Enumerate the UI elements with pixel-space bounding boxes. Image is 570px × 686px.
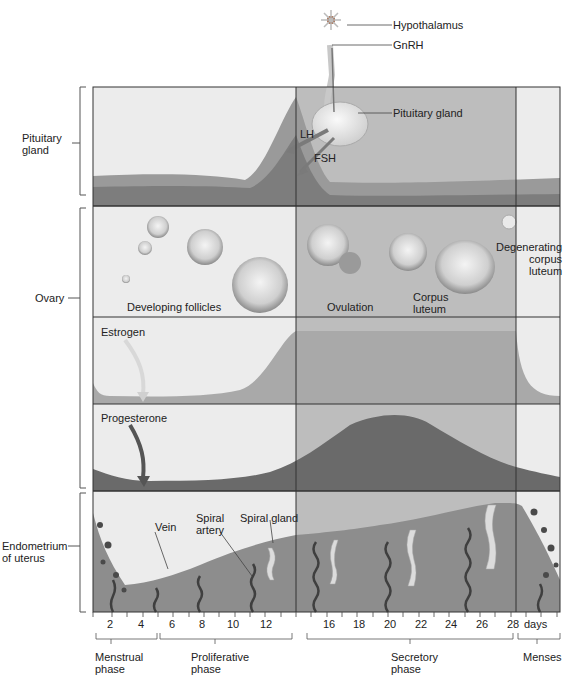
label-endometrium-line1: Endometrium bbox=[2, 540, 67, 552]
label-ovary: Ovary bbox=[35, 292, 64, 304]
label-hypothalamus: Hypothalamus bbox=[393, 19, 463, 31]
label-pituitary-line2: gland bbox=[22, 144, 62, 156]
label-spiral-gland: Spiral gland bbox=[240, 512, 298, 524]
label-spiral-artery-line2: artery bbox=[196, 524, 224, 536]
label-menstrual-line1: Menstrual bbox=[95, 651, 143, 663]
axis-unit: days bbox=[524, 618, 547, 630]
tick-18: 18 bbox=[353, 618, 365, 630]
label-proliferative-line1: Proliferative bbox=[191, 651, 249, 663]
label-pituitary-gland: Pituitary gland bbox=[393, 107, 463, 119]
tick-6: 6 bbox=[169, 618, 175, 630]
label-spiral-artery-line1: Spiral bbox=[196, 512, 224, 524]
label-corpus-luteum: Corpus luteum bbox=[413, 291, 448, 315]
label-estrogen: Estrogen bbox=[101, 326, 145, 338]
label-pituitary-line1: Pituitary bbox=[22, 132, 62, 144]
label-secretory-line2: phase bbox=[391, 663, 438, 675]
label-lh: LH bbox=[300, 128, 314, 140]
tick-26: 26 bbox=[476, 618, 488, 630]
tick-8: 8 bbox=[199, 618, 205, 630]
tick-10: 10 bbox=[227, 618, 239, 630]
label-vein: Vein bbox=[155, 521, 176, 533]
label-endometrium-line2: of uterus bbox=[2, 552, 67, 564]
tick-2: 2 bbox=[107, 618, 113, 630]
label-corpus-luteum-line1: Corpus bbox=[413, 291, 448, 303]
label-secretory-line1: Secretory bbox=[391, 651, 438, 663]
label-menstrual-phase: Menstrual phase bbox=[95, 651, 143, 675]
cycle-diagram bbox=[0, 0, 570, 686]
label-secretory-phase: Secretory phase bbox=[391, 651, 438, 675]
label-developing-follicles: Developing follicles bbox=[127, 301, 221, 313]
label-endometrium: Endometrium of uterus bbox=[2, 540, 67, 564]
tick-28: 28 bbox=[507, 618, 519, 630]
label-degenerating-line3: luteum bbox=[496, 265, 562, 277]
tick-20: 20 bbox=[384, 618, 396, 630]
label-corpus-luteum-line2: luteum bbox=[413, 303, 448, 315]
side-brackets bbox=[68, 87, 86, 612]
tick-12: 12 bbox=[260, 618, 272, 630]
label-proliferative-line2: phase bbox=[191, 663, 249, 675]
label-progesterone: Progesterone bbox=[101, 412, 167, 424]
label-pituitary: Pituitary gland bbox=[22, 132, 62, 156]
label-ovulation: Ovulation bbox=[327, 301, 373, 313]
label-menstrual-line2: phase bbox=[95, 663, 143, 675]
tick-24: 24 bbox=[445, 618, 457, 630]
phase-brackets bbox=[96, 633, 560, 644]
label-menses: Menses bbox=[523, 651, 562, 663]
label-spiral-artery: Spiral artery bbox=[196, 512, 224, 536]
tick-4: 4 bbox=[138, 618, 144, 630]
tick-16: 16 bbox=[323, 618, 335, 630]
axis-ticks bbox=[93, 612, 557, 617]
label-degenerating-corpus-luteum: Degenerating corpus luteum bbox=[496, 241, 562, 277]
label-degenerating-line2: corpus bbox=[496, 253, 562, 265]
label-fsh: FSH bbox=[314, 152, 336, 164]
label-proliferative-phase: Proliferative phase bbox=[191, 651, 249, 675]
label-degenerating-line1: Degenerating bbox=[496, 241, 562, 253]
tick-22: 22 bbox=[415, 618, 427, 630]
label-gnrh: GnRH bbox=[393, 39, 424, 51]
